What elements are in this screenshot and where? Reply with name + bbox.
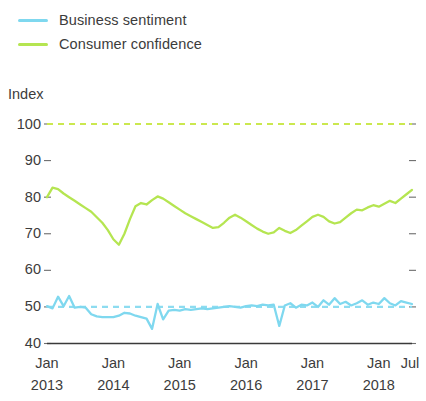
x-tick-month: Jul [401,355,420,371]
x-tick-month: Jan [301,355,324,371]
series-line-business-sentiment [47,296,412,329]
x-tick-month: Jan [234,355,257,371]
chart-container: Business sentiment Consumer confidence I… [0,0,426,401]
x-tick-year: 2018 [363,377,395,393]
reference-lines [47,124,412,307]
series-line-consumer-confidence [47,188,412,245]
axis-tickmarks [44,124,416,344]
x-tick-month: Jan [102,355,125,371]
chart-svg: 100 90 80 70 60 50 40 Jan2013Jan2014Jan2… [0,0,426,401]
x-tick-year: 2017 [296,377,328,393]
x-tick-year: 2016 [230,377,262,393]
x-tick-year: 2015 [164,377,196,393]
x-tick-year: 2014 [97,377,129,393]
y-tick-label: 90 [25,152,41,168]
x-tick-year: 2013 [31,377,63,393]
y-tick-label: 40 [25,335,41,351]
x-tick-month: Jan [168,355,191,371]
y-tick-label: 70 [25,225,41,241]
y-axis-ticks: 100 90 80 70 60 50 40 [17,116,41,351]
y-tick-label: 60 [25,261,41,277]
y-tick-label: 50 [25,298,41,314]
x-tick-month: Jan [367,355,390,371]
y-tick-label: 80 [25,189,41,205]
y-tick-label: 100 [17,116,41,132]
x-axis-ticks: Jan2013Jan2014Jan2015Jan2016Jan2017Jan20… [31,355,419,393]
x-tick-month: Jan [35,355,58,371]
plot-area: 100 90 80 70 60 50 40 Jan2013Jan2014Jan2… [0,0,426,401]
